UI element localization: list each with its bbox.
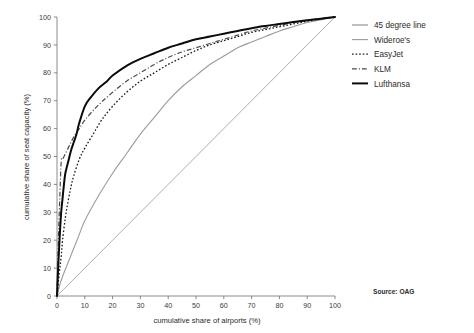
- y-axis-title: cumulative share of seat capacity (%): [22, 93, 31, 220]
- x-tick-label: 80: [275, 301, 283, 310]
- x-tick-label: 60: [220, 301, 228, 310]
- x-tick-label: 20: [109, 301, 117, 310]
- y-tick-label: 20: [43, 236, 51, 245]
- x-tick-label: 0: [55, 301, 59, 310]
- x-tick-label: 70: [248, 301, 256, 310]
- x-tick-label: 90: [303, 301, 311, 310]
- legend-label-lufthansa: Lufthansa: [374, 80, 410, 89]
- legend-label-wideroe-s: Wideroe's: [374, 36, 410, 45]
- legend-label-klm: KLM: [374, 65, 391, 74]
- y-tick-label: 60: [43, 124, 51, 133]
- x-tick-label: 30: [136, 301, 144, 310]
- x-tick-label: 10: [81, 301, 89, 310]
- y-tick-label: 80: [43, 68, 51, 77]
- y-tick-label: 30: [43, 208, 51, 217]
- x-axis-title: cumulative share of airports (%): [153, 316, 261, 325]
- y-tick-label: 40: [43, 180, 51, 189]
- y-tick-label: 70: [43, 96, 51, 105]
- y-tick-label: 10: [43, 264, 51, 273]
- x-tick-label: 40: [164, 301, 172, 310]
- y-tick-label: 50: [43, 152, 51, 161]
- x-tick-label: 50: [192, 301, 200, 310]
- source-note: Source: OAG: [373, 288, 414, 295]
- y-tick-label: 90: [43, 41, 51, 50]
- legend-label-easyjet: EasyJet: [374, 50, 404, 59]
- y-tick-label: 100: [39, 13, 51, 22]
- legend-label-45-degree-line: 45 degree line: [374, 21, 426, 30]
- y-tick-label: 0: [47, 292, 51, 301]
- lorenz-curve-chart: 0102030405060708090100 01020304050607080…: [0, 0, 474, 333]
- x-tick-label: 100: [329, 301, 341, 310]
